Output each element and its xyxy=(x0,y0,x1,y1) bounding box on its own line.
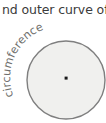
circle-diagram: circumference xyxy=(0,0,106,123)
circle-shape xyxy=(27,41,105,119)
circle-circumference-figure: nd outer curve of circumference xyxy=(0,0,106,123)
center-point-icon xyxy=(65,77,68,80)
